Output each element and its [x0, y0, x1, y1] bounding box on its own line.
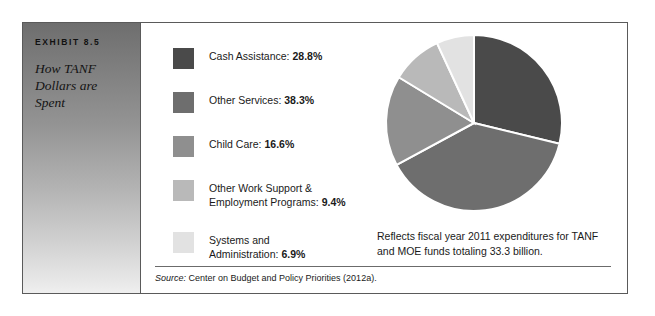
- exhibit-title-panel: EXHIBIT 8.5 How TANF Dollars are Spent: [23, 23, 141, 293]
- source-line: Source: Center on Budget and Policy Prio…: [155, 273, 377, 283]
- legend-item-label: Systems andAdministration: 6.9%: [209, 231, 305, 261]
- legend-item: Child Care: 16.6%: [173, 135, 379, 157]
- legend-item-percent: 16.6%: [264, 138, 294, 150]
- chart-caption: Reflects fiscal year 2011 expenditures f…: [377, 229, 609, 259]
- legend-item: Other Work Support &Employment Programs:…: [173, 179, 379, 209]
- legend-swatch-child-care: [173, 136, 194, 157]
- legend-swatch-cash-assistance: [173, 48, 194, 69]
- legend-item-percent: 9.4%: [322, 196, 346, 208]
- legend-item-label: Child Care: 16.6%: [209, 135, 294, 151]
- legend-item-percent: 38.3%: [284, 94, 314, 106]
- exhibit-content: Cash Assistance: 28.8%Other Services: 38…: [141, 23, 627, 293]
- legend-swatch-systems-administration: [173, 232, 194, 253]
- legend-item: Cash Assistance: 28.8%: [173, 47, 379, 69]
- exhibit-number: EXHIBIT 8.5: [35, 37, 140, 47]
- chart-legend: Cash Assistance: 28.8%Other Services: 38…: [173, 47, 379, 261]
- pie-chart-svg: [384, 33, 564, 213]
- pie-chart: [384, 33, 564, 213]
- legend-item: Systems andAdministration: 6.9%: [173, 231, 379, 261]
- legend-item: Other Services: 38.3%: [173, 91, 379, 113]
- source-divider: [155, 266, 611, 267]
- legend-swatch-other-services: [173, 92, 194, 113]
- legend-item-percent: 28.8%: [292, 50, 322, 62]
- source-label: Source:: [155, 273, 186, 283]
- page-title: How TANF Dollars are Spent: [35, 60, 119, 111]
- exhibit-frame: EXHIBIT 8.5 How TANF Dollars are Spent C…: [22, 22, 628, 294]
- source-text: Center on Budget and Policy Priorities (…: [186, 273, 377, 283]
- legend-item-label: Other Work Support &Employment Programs:…: [209, 179, 346, 209]
- legend-swatch-other-work-support: [173, 180, 194, 201]
- legend-item-label: Other Services: 38.3%: [209, 91, 314, 107]
- legend-item-percent: 6.9%: [281, 248, 305, 260]
- legend-item-label: Cash Assistance: 28.8%: [209, 47, 322, 63]
